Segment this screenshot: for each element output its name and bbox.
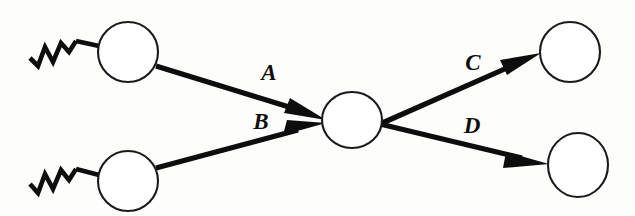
edge-b-line (156, 130, 298, 168)
node-input-top[interactable] (98, 22, 158, 82)
edge-b-label: B (252, 109, 268, 134)
node-output-top[interactable] (540, 22, 600, 82)
zigzag-top-icon (30, 41, 76, 66)
diagram-canvas: A B C D (0, 0, 635, 216)
edge-c: C (380, 50, 541, 124)
node-center[interactable] (322, 92, 382, 148)
zigzag-top-lead (76, 41, 99, 46)
edge-c-line (380, 64, 516, 124)
zigzag-bottom-icon (30, 169, 76, 193)
zigzag-input-symbol-bottom (30, 169, 99, 193)
edge-c-label: C (465, 50, 481, 75)
node-output-bottom[interactable] (548, 133, 608, 197)
edge-c-arrowhead (500, 53, 541, 75)
edge-b: B (156, 109, 326, 168)
edge-a-line (156, 66, 302, 111)
network-diagram: A B C D (0, 0, 635, 216)
zigzag-input-symbol-top (30, 41, 99, 66)
edge-a: A (156, 60, 326, 120)
edge-d-line (380, 124, 522, 158)
edge-d-arrowhead (503, 152, 549, 168)
edge-d-label: D (463, 113, 481, 138)
zigzag-bottom-lead (76, 169, 99, 175)
edge-d: D (380, 113, 549, 168)
node-input-bottom[interactable] (98, 151, 158, 211)
edge-a-label: A (259, 60, 276, 85)
edge-a-arrowhead (284, 98, 326, 120)
edge-b-arrowhead (283, 120, 326, 135)
